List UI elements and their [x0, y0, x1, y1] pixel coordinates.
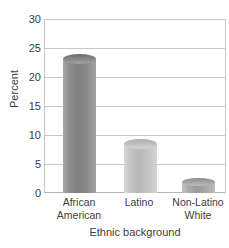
- bar-latino: [124, 139, 157, 193]
- x-tick-label-latino: Latino: [108, 196, 170, 209]
- bar-chart: Percent 30 25 20 15 10 5 0: [0, 0, 229, 248]
- y-tick-label: 30: [3, 14, 41, 25]
- bar-body: [124, 144, 157, 193]
- y-tick-label: 15: [3, 101, 41, 112]
- bar-top-cap: [182, 178, 215, 186]
- y-tick-label: 20: [3, 72, 41, 83]
- y-tick-label: 0: [3, 188, 41, 199]
- y-tick-label: 5: [3, 159, 41, 170]
- y-tick-label: 25: [3, 43, 41, 54]
- bar-african-american: [63, 54, 96, 193]
- gridline-30: [45, 19, 225, 20]
- bar-top-cap: [63, 54, 96, 64]
- x-tick-label-line2: White: [162, 209, 229, 222]
- x-tick-label-non-latino-white: Non-Latino White: [162, 196, 229, 222]
- y-tick-label: 10: [3, 130, 41, 141]
- plot-area: [44, 19, 226, 193]
- bar-body: [63, 59, 96, 193]
- x-tick-label-line1: African: [41, 196, 117, 209]
- x-tick-label-line2: American: [41, 209, 117, 222]
- x-tick-label-line1: Non-Latino: [162, 196, 229, 209]
- x-axis-title: Ethnic background: [44, 226, 226, 239]
- x-tick-label-line1: Latino: [108, 196, 170, 209]
- x-tick-label-african-american: African American: [41, 196, 117, 222]
- bar-non-latino-white: [182, 178, 215, 193]
- gridline-25: [45, 48, 225, 49]
- x-axis-tick-labels: African American Latino Non-Latino White: [44, 196, 226, 226]
- bar-top-cap: [124, 139, 157, 149]
- y-axis-tick-labels: 30 25 20 15 10 5 0: [0, 19, 41, 193]
